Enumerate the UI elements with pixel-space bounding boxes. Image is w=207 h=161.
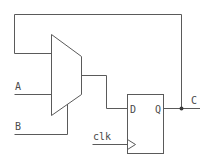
clock-label: clk	[93, 131, 111, 142]
ff-q-pin-label: Q	[155, 104, 161, 115]
circuit-diagram: A B D Q clk C	[0, 0, 207, 161]
multiplexer	[52, 35, 82, 116]
output-c-label: C	[191, 95, 197, 106]
ff-d-pin-label: D	[130, 104, 136, 115]
input-a-label: A	[15, 81, 21, 92]
input-b-label: B	[15, 121, 21, 132]
mux-output-wire	[82, 76, 128, 109]
junction-dot	[180, 107, 184, 111]
